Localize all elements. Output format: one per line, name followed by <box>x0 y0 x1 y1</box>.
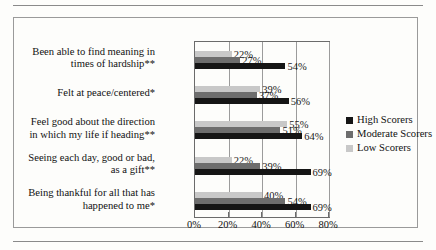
legend-label: Low Scorers <box>357 142 434 154</box>
category-label-line: Being thankful for all that has <box>0 187 155 200</box>
bar-row: 40%54%69% <box>195 184 329 219</box>
category-label-line: in which my life if heading** <box>0 129 155 142</box>
category-label-line: Been able to find meaning in <box>0 46 155 59</box>
category-label-line: times of hardship** <box>0 58 155 71</box>
category-label-line: happened to me* <box>0 200 155 213</box>
figure-frame: Been able to find meaning intimes of har… <box>13 17 418 228</box>
legend: High ScorersModerate ScorersLow Scorers <box>346 114 434 156</box>
legend-swatch-icon <box>346 131 353 138</box>
bottom-rule <box>13 241 423 242</box>
category-label-line: Seeing each day, good or bad, <box>0 152 155 165</box>
bar-value-label: 64% <box>304 132 323 142</box>
legend-swatch-icon <box>346 145 353 152</box>
x-axis-tickmark <box>194 212 195 218</box>
x-axis-tickmark <box>328 212 329 218</box>
top-rule <box>13 5 423 6</box>
legend-swatch-icon <box>346 117 353 124</box>
legend-item[interactable]: Moderate Scorers <box>346 128 434 141</box>
x-axis-tickmark <box>295 212 296 218</box>
bar-high <box>195 169 311 175</box>
bar-high <box>195 133 302 139</box>
legend-item[interactable]: High Scorers <box>346 114 434 127</box>
bar-row: 39%37%56% <box>195 78 329 113</box>
bar-high <box>195 204 311 210</box>
bar-value-label: 69% <box>313 168 332 178</box>
x-axis-tick-label: 40% <box>251 219 270 230</box>
gridline <box>329 42 330 217</box>
bar-value-label: 54% <box>287 62 306 72</box>
bar-high <box>195 63 285 69</box>
category-label: Feel good about the directionin which my… <box>0 116 155 141</box>
chart-figure: Been able to find meaning intimes of har… <box>0 0 436 250</box>
category-label-line: as a gift** <box>0 164 155 177</box>
bar-row: 55%51%64% <box>195 113 329 148</box>
category-label-line: Feel good about the direction <box>0 116 155 129</box>
category-label-line: Felt at peace/centered* <box>0 87 155 100</box>
bar-row: 22%39%69% <box>195 149 329 184</box>
bar-value-label: 56% <box>291 97 310 107</box>
x-axis-tickmark <box>261 212 262 218</box>
plot-area: 22%27%54%39%37%56%55%51%64%22%39%69%40%5… <box>194 41 330 218</box>
legend-label: Moderate Scorers <box>357 128 434 140</box>
category-label: Seeing each day, good or bad,as a gift** <box>0 152 155 177</box>
x-axis-tickmark <box>228 212 229 218</box>
legend-item[interactable]: Low Scorers <box>346 142 434 155</box>
category-label: Been able to find meaning intimes of har… <box>0 46 155 71</box>
bar-high <box>195 98 289 104</box>
category-label: Being thankful for all that hashappened … <box>0 187 155 212</box>
category-label: Felt at peace/centered* <box>0 87 155 100</box>
x-axis-tick-label: 0% <box>187 219 201 230</box>
x-axis-tick-label: 80% <box>318 219 337 230</box>
x-axis-tick-label: 20% <box>218 219 237 230</box>
bar-row: 22%27%54% <box>195 43 329 78</box>
legend-label: High Scorers <box>357 114 434 126</box>
x-axis-tick-label: 60% <box>285 219 304 230</box>
